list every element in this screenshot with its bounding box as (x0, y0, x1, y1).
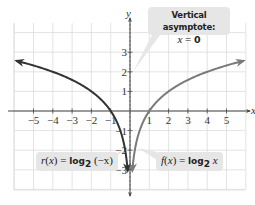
y-tick-label: 1 (122, 85, 128, 97)
x-tick-label: −4 (47, 114, 59, 126)
x-tick-label: −5 (28, 114, 40, 126)
x-tick-label: 2 (166, 114, 172, 126)
y-axis-label: y (125, 7, 131, 19)
x-tick-label: −2 (86, 114, 98, 126)
asymptote-equation: x = 0 (148, 33, 230, 46)
r-function-label: r(x) = log2 (−x) (36, 152, 118, 171)
x-tick-label: −3 (66, 114, 78, 126)
asymptote-callout: Vertical asymptote: x = 0 (148, 7, 230, 35)
y-tick-label: 3 (122, 46, 128, 58)
y-tick-label: 2 (122, 66, 128, 78)
asymptote-title: Vertical asymptote: (148, 9, 230, 33)
x-axis-label: x (250, 104, 255, 116)
x-tick-label: 4 (204, 114, 210, 126)
f-function-label: f(x) = log2 x (156, 152, 223, 171)
x-tick-label: 5 (224, 114, 230, 126)
x-tick-label: 3 (185, 114, 191, 126)
